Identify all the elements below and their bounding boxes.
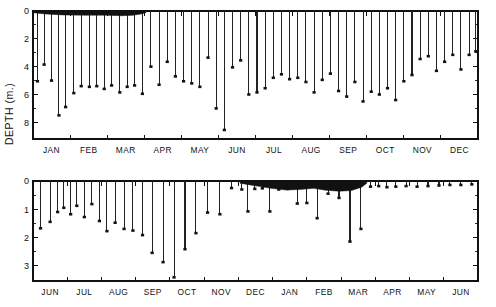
top-ice-cover-band: [33, 11, 146, 16]
stem-cap: [321, 79, 324, 82]
stem-cap: [194, 232, 197, 235]
stem-cap: [69, 213, 72, 216]
stem-cap: [56, 211, 59, 214]
stem-cap: [305, 202, 308, 205]
bottom-month-label-dec-6: DEC: [246, 287, 265, 297]
stem-cap: [118, 91, 121, 94]
stem-cap: [402, 80, 405, 83]
stem-cap: [131, 229, 134, 232]
stem-cap: [151, 252, 154, 255]
stem-cap: [183, 248, 186, 251]
stem-cap: [470, 183, 473, 186]
stem-cap: [83, 216, 86, 219]
stem-cap: [405, 185, 408, 188]
top-month-label-dec-11: DEC: [450, 145, 469, 155]
stem-cap: [326, 192, 329, 195]
stem-cap: [459, 68, 462, 71]
stem-cap: [198, 86, 201, 89]
stem-cap: [427, 55, 430, 58]
stem-cap: [157, 83, 160, 86]
stem-cap: [122, 228, 125, 231]
stem-cap: [218, 213, 221, 216]
stem-cap: [459, 184, 462, 187]
stem-cap: [49, 221, 52, 224]
top-month-label-jun-5: JUN: [228, 145, 245, 155]
stem-cap: [468, 54, 471, 57]
stem-cap: [166, 60, 169, 63]
stem-cap: [378, 93, 381, 96]
top-panel-plot: 02468JANFEBMARAPRMAYJUNJULAUGSEPOCTNOVDE…: [24, 6, 478, 155]
stem-cap: [377, 185, 380, 188]
stem-cap: [415, 185, 418, 188]
stem-cap: [255, 91, 258, 94]
stem-cap: [161, 261, 164, 264]
stem-cap: [230, 187, 233, 190]
stem-cap: [133, 84, 136, 87]
stem-cap: [174, 75, 177, 78]
stem-cap: [80, 85, 83, 88]
top-month-label-sep-8: SEP: [339, 145, 357, 155]
y-axis-title: DEPTH (m.): [3, 83, 15, 145]
stem-cap: [386, 87, 389, 90]
bottom-y-tick-label: 3: [24, 261, 29, 271]
stem-cap: [36, 80, 39, 83]
bottom-month-label-mar-9: MAR: [348, 287, 368, 297]
stem-cap: [141, 234, 144, 237]
stem-cap: [264, 87, 267, 90]
stem-cap: [312, 91, 315, 94]
stem-cap: [448, 184, 451, 187]
bottom-y-tick-label: 2: [24, 233, 29, 243]
top-y-tick-label: 8: [24, 118, 29, 128]
stem-cap: [231, 66, 234, 69]
top-y-tick-label: 2: [24, 34, 29, 44]
bottom-stem-series: [39, 181, 474, 279]
bottom-month-label-sep-3: SEP: [144, 287, 162, 297]
stem-cap: [329, 72, 332, 75]
top-month-label-jan-0: JAN: [43, 145, 60, 155]
stem-cap: [126, 86, 129, 89]
stem-cap: [239, 59, 242, 62]
stem-cap: [361, 100, 364, 103]
stem-cap: [337, 197, 340, 200]
stem-cap: [280, 73, 283, 76]
stem-cap: [206, 56, 209, 59]
stem-cap: [105, 230, 108, 233]
stem-cap: [261, 187, 264, 190]
stem-cap: [43, 63, 46, 66]
bottom-month-label-jun-0: JUN: [41, 287, 58, 297]
stem-cap: [215, 107, 218, 110]
stem-cap: [98, 220, 101, 223]
stem-cap: [240, 188, 243, 191]
stem-cap: [443, 60, 446, 63]
stem-cap: [426, 185, 429, 188]
bottom-month-label-may-11: MAY: [417, 287, 436, 297]
bottom-month-label-feb-8: FEB: [315, 287, 333, 297]
stem-cap: [62, 206, 65, 209]
bottom-month-label-jul-1: JUL: [76, 287, 92, 297]
top-month-label-nov-10: NOV: [413, 145, 432, 155]
stem-cap: [141, 92, 144, 95]
stem-cap: [206, 211, 209, 214]
stem-cap: [50, 79, 53, 82]
bottom-ice-cover-band: [240, 181, 367, 191]
stem-cap: [348, 240, 351, 243]
stem-cap: [451, 54, 454, 57]
stem-cap: [288, 78, 291, 81]
stem-cap: [474, 50, 477, 53]
stem-cap: [410, 74, 413, 77]
bottom-month-label-apr-10: APR: [383, 287, 401, 297]
stem-cap: [172, 276, 175, 279]
stem-cap: [304, 81, 307, 84]
depth-chart-svg: DEPTH (m.) 02468JANFEBMARAPRMAYJUNJULAUG…: [0, 0, 496, 307]
stem-cap: [103, 88, 106, 91]
top-y-tick-label: 6: [24, 90, 29, 100]
stem-cap: [296, 76, 299, 79]
stem-cap: [394, 99, 397, 102]
stem-cap: [370, 90, 373, 93]
bottom-y-tick-label: 0: [24, 176, 29, 186]
stem-cap: [296, 202, 299, 205]
stem-cap: [246, 210, 249, 213]
bottom-y-tick-label: 1: [24, 205, 29, 215]
top-month-label-jul-6: JUL: [266, 145, 282, 155]
stem-cap: [437, 184, 440, 187]
